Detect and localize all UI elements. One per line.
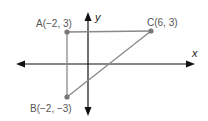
point-b xyxy=(64,94,69,99)
x-axis-label: x xyxy=(191,47,198,59)
y-axis-up-arrow-icon xyxy=(85,12,92,21)
point-a-label: A(−2, 3) xyxy=(36,18,72,29)
x-axis-left-arrow-icon xyxy=(16,61,25,68)
segment-ac xyxy=(67,31,151,32)
y-axis-label: y xyxy=(94,11,102,23)
y-axis-down-arrow-icon xyxy=(85,107,92,116)
point-b-label: B(−2, −3) xyxy=(30,103,72,114)
point-c-label: C(6, 3) xyxy=(147,17,178,28)
coordinate-plane: x y A(−2, 3) B(−2, −3) C(6, 3) xyxy=(0,0,208,121)
point-a xyxy=(64,29,69,34)
x-axis-right-arrow-icon xyxy=(186,61,195,68)
point-c xyxy=(148,28,153,33)
